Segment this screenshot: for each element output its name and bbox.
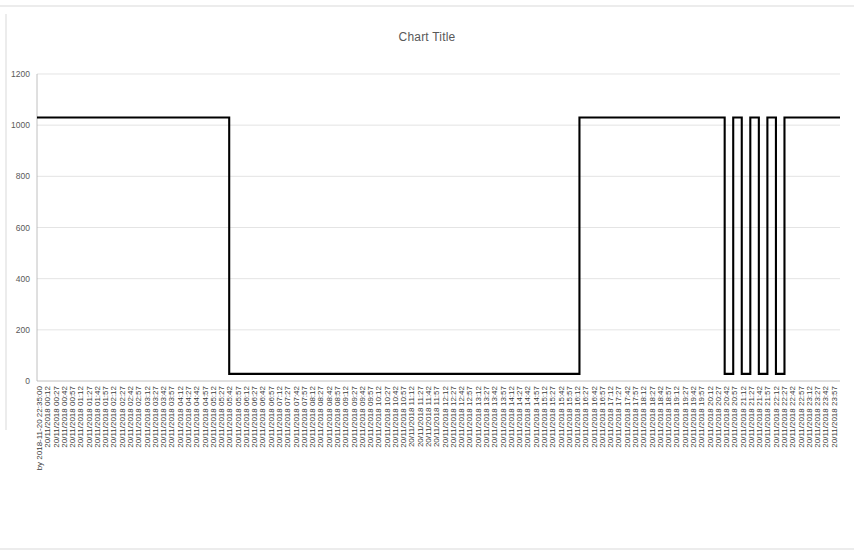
gridlines-group bbox=[37, 74, 840, 330]
y-axis-tick-labels: 020040060080010001200 bbox=[11, 69, 30, 386]
plot-area: 020040060080010001200 by 2018-11-20 22:3… bbox=[0, 0, 854, 557]
y-axis-tick-label: 800 bbox=[16, 171, 30, 181]
y-axis-tick-label: 1000 bbox=[11, 120, 30, 130]
x-axis-tick-label: 20/11/2018 23:57 bbox=[830, 385, 839, 447]
chart-container: Chart Title 020040060080010001200 by 201… bbox=[0, 0, 854, 557]
chart-svg: 020040060080010001200 by 2018-11-20 22:3… bbox=[0, 0, 854, 557]
x-axis-tick-labels: by 2018-11-20 22:35:0020/11/2018 00:1220… bbox=[35, 385, 839, 470]
y-axis-tick-label: 0 bbox=[25, 376, 30, 386]
y-axis-tick-label: 600 bbox=[16, 223, 30, 233]
data-series-line bbox=[37, 117, 840, 373]
y-axis-tick-label: 200 bbox=[16, 325, 30, 335]
y-axis-tick-label: 400 bbox=[16, 274, 30, 284]
y-axis-tick-label: 1200 bbox=[11, 69, 30, 79]
